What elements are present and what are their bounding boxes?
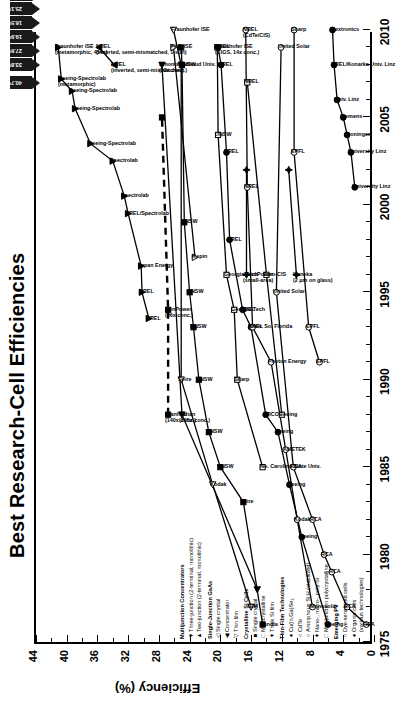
y-tick [251,635,252,642]
legend-item[interactable]: ✦Nano-, micro-, poly-Si [313,538,322,639]
data-point-label: UNSW [181,218,197,224]
y-tick-minor [51,638,52,642]
x-tick-minor [366,81,370,82]
data-point-label: NREL (CdTe/CIS) [243,26,270,38]
legend-item[interactable]: □Multijunction polycrystalline [322,538,331,639]
legend-item-label: Dye-sensitized cells [342,583,348,632]
x-tick [363,379,370,380]
y-tick-label: 40 [58,650,70,684]
data-point-label: NREL [240,306,255,312]
x-tick-minor [366,536,370,537]
x-tick [363,291,370,292]
data-point-label: UNSW [196,376,212,382]
flag-value-label: 33.8% [4,62,25,68]
legend-item[interactable]: ●Cu(In,Ga)Se₂ [287,538,296,639]
legend-item[interactable]: ○Amorphous Si:H (stabilized) [304,538,313,639]
flag-tip-icon [32,59,40,71]
legend-item-label: Two-junction (2-terminal, monolithic) [196,542,202,632]
record-efficiency-flag: 40.7% [10,76,40,89]
legend-item[interactable]: ◀Concentrator [223,538,232,639]
series-line [162,65,257,590]
x-tick-minor [366,396,370,397]
data-point-label: Japan Energy [138,262,173,268]
legend-item[interactable]: ▽Thin film [232,538,241,639]
data-point-label: NREL [227,236,242,242]
y-tick-label: 32 [119,650,131,684]
y-tick [220,635,221,642]
y-tick-minor [359,638,360,642]
legend-item[interactable]: ▼Three-junction (2-terminal, monolithic) [187,538,196,639]
data-point-label: UNSW [215,131,231,137]
legend-item[interactable]: ○CdTe [296,538,305,639]
x-tick-minor [366,501,370,502]
record-efficiency-flag: 20.3% [10,0,40,1]
x-tick [363,116,370,117]
x-tick-minor [366,414,370,415]
series-group [330,27,358,190]
flag-tip-icon [32,0,40,1]
y-tick [128,635,129,642]
legend-item[interactable]: ○Dye-sensitized cells [341,538,350,639]
x-tick [363,29,370,30]
x-tick-minor [366,274,370,275]
legend-item[interactable]: ◁Single crystal [214,538,223,639]
record-efficiency-flag: 27.6% [10,44,40,57]
data-point-label: UNSW [187,288,203,294]
data-point-label: Plextronics [330,26,359,32]
legend-item[interactable]: ■Single crystal [251,538,260,639]
data-point-label: Boeing [275,428,293,434]
series-group [215,45,266,470]
page-title: Best Research-Cell Efficiencies [6,253,29,558]
x-tick-minor [366,326,370,327]
data-point-label: RCA [290,463,302,469]
data-point-label: Stanford (140x conc.) [165,411,196,423]
data-point-label: Sharp [291,26,306,32]
legend-marker-icon: ▼ [187,632,195,639]
series-line [294,30,319,362]
data-point-label: Photon Energy [268,358,306,364]
data-point-label: Spire [240,498,253,504]
data-point-label: United Solar [278,44,310,50]
data-point-label: Sharp [234,376,249,382]
legend-item[interactable]: □Multicrystalline [259,538,268,639]
x-tick-minor [366,256,370,257]
y-tick-minor [144,638,145,642]
legend-item-label: CdTe [297,619,303,632]
legend-item-label: Amorphous Si:H (stabilized) [305,563,311,632]
data-point-label: EPFL [306,323,320,329]
legend-item-label: Thin film [233,611,239,632]
x-tick-minor [366,624,370,625]
y-tick-label: 24 [181,650,193,684]
x-tick [363,466,370,467]
data-point-label: Spire [178,376,191,382]
series-group [245,80,285,417]
x-tick-label: 1995 [378,274,392,314]
record-efficiency-flag: 16.5% [10,16,40,29]
flag-value-label: 16.5% [4,20,25,26]
x-tick-minor [366,134,370,135]
data-point-label: NREL [139,288,154,294]
legend-group-header: Multijunction Concentrators [179,538,187,639]
data-point-label: Boeing [279,411,297,417]
data-point-label: AMETEK [283,446,306,452]
legend-group-header: Single-Junction GaAs [207,538,215,639]
data-point-label: NREL/Konarka Univ. Linz [331,61,395,67]
y-tick-label: 8 [304,650,316,684]
chart-legend: Multijunction Concentrators▼Three-juncti… [176,538,366,639]
x-tick-minor [366,169,370,170]
legend-item[interactable]: ✦Thick Si film [268,538,277,639]
data-point-label: Siemens [340,113,362,119]
data-point-label: Boeing-Spectrolab [69,87,117,93]
legend-item-label: Organic cells [351,600,357,632]
x-tick-minor [366,449,370,450]
x-tick-label: 1975 [378,624,392,664]
data-point-label: Euro-CIS [263,271,286,277]
y-tick-minor [297,638,298,642]
legend-item[interactable]: ●Organic cells [350,538,359,639]
data-point-marker [159,115,164,120]
legend-item-label: Single crystal [252,599,258,632]
y-tick-minor [266,638,267,642]
y-tick [282,635,283,642]
legend-item[interactable]: ▲Two-junction (2-terminal, monolithic) [195,538,204,639]
record-efficiency-flag: 25.1% [10,2,40,15]
